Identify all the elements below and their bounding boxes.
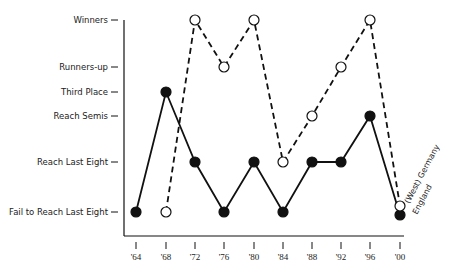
germany-marker: [307, 111, 317, 121]
germany-marker: [395, 201, 405, 211]
x-tick-label: '80: [249, 252, 260, 262]
y-tick-label: Winners: [73, 15, 108, 25]
legend: (West) GermanyEngland: [403, 143, 442, 216]
germany-marker: [336, 62, 346, 72]
series-lines: [131, 15, 405, 220]
y-axis-labels: Fail to Reach Last EightReach Last Eight…: [9, 15, 118, 217]
germany-marker: [190, 15, 200, 25]
x-tick-label: '84: [278, 252, 289, 262]
england-marker: [190, 157, 200, 167]
england-marker: [219, 207, 229, 217]
y-tick-label: Third Place: [60, 87, 108, 97]
x-tick-label: '68: [161, 252, 172, 262]
y-tick-label: Fail to Reach Last Eight: [9, 207, 109, 217]
x-tick-label: '72: [190, 252, 201, 262]
germany-marker: [278, 157, 288, 167]
england-marker: [365, 111, 375, 121]
england-marker: [307, 157, 317, 167]
x-tick-label: '92: [336, 252, 347, 262]
x-tick-label: '76: [219, 252, 230, 262]
y-tick-label: Reach Semis: [54, 111, 109, 121]
england-line: [136, 92, 400, 215]
germany-marker: [365, 15, 375, 25]
germany-marker: [219, 62, 229, 72]
germany-marker: [161, 207, 171, 217]
x-tick-label: '88: [307, 252, 318, 262]
chart: Fail to Reach Last EightReach Last Eight…: [0, 0, 458, 274]
y-tick-label: Reach Last Eight: [37, 157, 109, 167]
x-tick-label: '64: [131, 252, 142, 262]
x-tick-label: '00: [395, 252, 406, 262]
england-marker: [161, 87, 171, 97]
england-marker: [131, 207, 141, 217]
england-marker: [336, 157, 346, 167]
x-tick-label: '96: [365, 252, 376, 262]
y-tick-label: Runners-up: [59, 62, 108, 72]
england-marker: [278, 207, 288, 217]
england-marker: [249, 157, 259, 167]
germany-marker: [249, 15, 259, 25]
x-axis-labels: '64'68'72'76'80'84'88'92'96'00: [131, 242, 406, 262]
